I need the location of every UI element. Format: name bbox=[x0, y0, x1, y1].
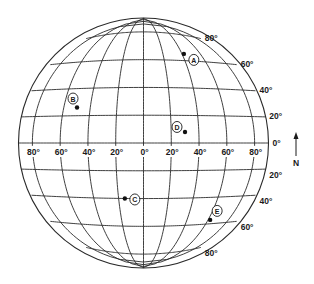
location-dot-icon bbox=[182, 52, 186, 56]
longitude-label: 60° bbox=[221, 147, 234, 157]
longitude-label: 0° bbox=[140, 147, 149, 157]
latitude-label-north: 40° bbox=[259, 85, 272, 95]
location-dot-icon bbox=[183, 130, 187, 134]
longitude-label: 40° bbox=[83, 147, 96, 157]
location-dot-icon bbox=[123, 196, 127, 200]
north-arrowhead-icon bbox=[294, 132, 299, 139]
point-e: E bbox=[208, 205, 222, 222]
longitude-label: 60° bbox=[55, 147, 68, 157]
point-d: D bbox=[172, 121, 187, 134]
latitude-label-south: 60° bbox=[241, 222, 254, 232]
latitude-label-north: 20° bbox=[269, 111, 282, 121]
location-dot-icon bbox=[208, 218, 212, 222]
longitude-label: 80° bbox=[249, 147, 262, 157]
longitude-label: 20° bbox=[166, 147, 179, 157]
north-label: N bbox=[293, 158, 299, 168]
latitude-label-south: 20° bbox=[269, 170, 282, 180]
longitude-label: 80° bbox=[27, 147, 40, 157]
point-label: B bbox=[70, 96, 75, 103]
latitude-label-south: 80° bbox=[205, 248, 218, 258]
point-label: A bbox=[191, 57, 196, 64]
latitude-label-south: 40° bbox=[259, 196, 272, 206]
north-indicator: N bbox=[293, 132, 299, 168]
longitude-label: 40° bbox=[194, 147, 207, 157]
point-label: D bbox=[174, 124, 179, 131]
longitude-label: 20° bbox=[110, 147, 123, 157]
latitude-label-north: 80° bbox=[205, 33, 218, 43]
point-c: C bbox=[123, 194, 140, 205]
globe-diagram: 80°60°40°20°0°20°40°60°80°80°60°40°20°0°… bbox=[0, 0, 314, 284]
point-b: B bbox=[68, 93, 79, 110]
graticule bbox=[19, 18, 269, 268]
point-label: C bbox=[132, 196, 137, 203]
latitude-label-north: 60° bbox=[241, 59, 254, 69]
equator-label: 0° bbox=[273, 138, 282, 148]
point-label: E bbox=[215, 208, 220, 215]
degree-labels: 80°60°40°20°0°20°40°60°80°80°60°40°20°0°… bbox=[24, 33, 282, 259]
location-dot-icon bbox=[75, 105, 79, 109]
